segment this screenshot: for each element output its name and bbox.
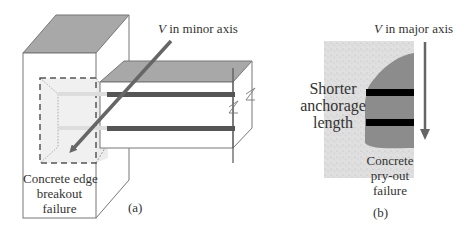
anchor-bar-bottom [366, 119, 414, 126]
anchorage-length-label: Shorter anchorage length [296, 80, 370, 131]
rebar-bottom [107, 126, 235, 131]
major-axis-label: V in major axis [374, 21, 453, 36]
pryout-label: Concrete pry-out failure [364, 153, 416, 198]
caption-a: (a) [128, 200, 142, 215]
column-top-face [23, 15, 129, 53]
plate-top-face [100, 61, 252, 82]
caption-b: (b) [373, 205, 388, 220]
minor-axis-label: V in minor axis [158, 21, 238, 36]
edge-breakout-label: Concrete edge breakout failure [23, 171, 96, 216]
anchor-bar-top [366, 89, 414, 96]
